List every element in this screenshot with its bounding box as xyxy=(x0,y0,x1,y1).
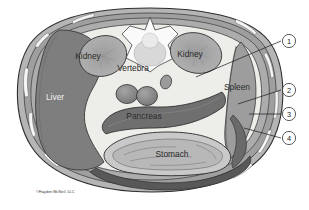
callout-1-number: 1 xyxy=(287,37,291,46)
label-kidney-right: Kidney xyxy=(177,49,203,59)
label-liver: Liver xyxy=(46,92,64,102)
label-stomach: Stomach xyxy=(155,149,188,159)
figure-container: Liver Kidney Vertebra Kidney Spleen Panc… xyxy=(0,0,309,210)
anatomy-cross-section-figure: Liver Kidney Vertebra Kidney Spleen Panc… xyxy=(0,0,309,210)
callout-2-number: 2 xyxy=(287,86,291,95)
spinal-canal xyxy=(142,33,158,48)
aorta xyxy=(137,87,158,106)
callout-3-number: 3 xyxy=(287,110,291,119)
vena-cava xyxy=(116,85,138,104)
label-pancreas: Pancreas xyxy=(126,111,161,121)
label-kidney-left: Kidney xyxy=(75,51,101,61)
credit-line: ©Hayden McNeil, LLC xyxy=(36,189,75,194)
label-spleen: Spleen xyxy=(224,82,250,92)
callout-4-number: 4 xyxy=(287,134,291,143)
label-vertebra: Vertebra xyxy=(117,63,149,73)
